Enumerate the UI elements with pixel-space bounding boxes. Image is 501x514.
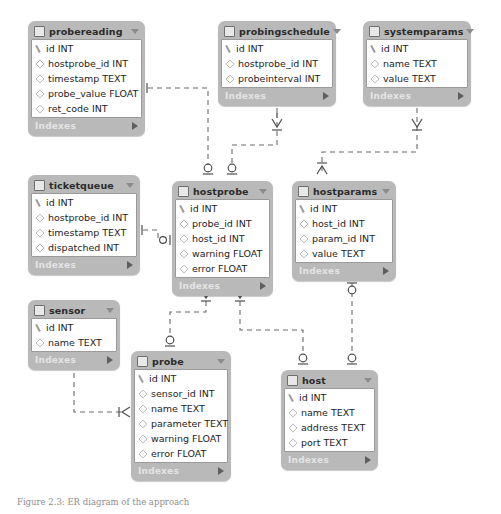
field-row[interactable]: value TEXT [367, 71, 467, 86]
field-row[interactable]: id INT [32, 41, 141, 56]
indexes-label: Indexes [35, 260, 127, 270]
indexes-section-systemparams[interactable]: Indexes [366, 89, 468, 103]
field-row[interactable]: id INT [32, 320, 116, 335]
field-row[interactable]: value TEXT [296, 246, 392, 261]
triangle-right-icon[interactable] [458, 92, 464, 100]
field-row[interactable]: probe_id INT [176, 216, 269, 231]
table-square-icon [178, 186, 189, 197]
table-probereading[interactable]: probereadingid INThostprobe_id INTtimest… [28, 21, 145, 136]
table-name-systemparams: systemparams [384, 26, 463, 37]
diamond-icon [139, 449, 148, 458]
indexes-section-hostparams[interactable]: Indexes [295, 264, 393, 278]
triangle-right-icon[interactable] [260, 282, 266, 290]
indexes-section-probingschedule[interactable]: Indexes [221, 89, 333, 103]
field-label: warning FLOAT [192, 248, 262, 259]
table-header-probe[interactable]: probe [134, 354, 228, 369]
field-row[interactable]: hostprobe_id INT [32, 56, 141, 71]
triangle-right-icon[interactable] [132, 122, 138, 130]
field-label: id INT [299, 392, 326, 403]
table-hostprobe[interactable]: hostprobeid INTprobe_id INThost_id INTwa… [172, 181, 273, 296]
caret-down-icon[interactable] [126, 183, 134, 188]
field-row[interactable]: hostprobe_id INT [32, 210, 136, 225]
field-row[interactable]: parameter TEXT [135, 416, 227, 431]
field-row[interactable]: probeinterval INT [222, 71, 332, 86]
field-list-probereading: id INThostprobe_id INTtimestamp TEXTprob… [31, 39, 142, 118]
field-row[interactable]: name TEXT [367, 56, 467, 71]
field-label: param_id INT [312, 233, 375, 244]
table-sensor[interactable]: sensorid INTname TEXTIndexes [28, 300, 120, 370]
field-row[interactable]: hostprobe_id INT [222, 56, 332, 71]
field-row[interactable]: id INT [176, 201, 269, 216]
table-probe[interactable]: probeid INTsensor_id INTname TEXTparamet… [131, 351, 231, 481]
caret-down-icon[interactable] [466, 29, 474, 34]
field-row[interactable]: address TEXT [285, 420, 374, 435]
field-label: probe_value FLOAT [48, 88, 138, 99]
field-row[interactable]: host_id INT [176, 231, 269, 246]
indexes-section-host[interactable]: Indexes [284, 453, 375, 467]
caret-down-icon[interactable] [333, 29, 341, 34]
indexes-section-ticketqueue[interactable]: Indexes [31, 258, 137, 272]
triangle-right-icon[interactable] [127, 261, 133, 269]
caret-down-icon[interactable] [131, 29, 139, 34]
field-row[interactable]: name TEXT [135, 401, 227, 416]
field-row[interactable]: ret_code INT [32, 101, 141, 116]
field-row[interactable]: param_id INT [296, 231, 392, 246]
caret-down-icon[interactable] [259, 189, 267, 194]
table-probingschedule[interactable]: probingscheduleid INThostprobe_id INTpro… [218, 21, 336, 106]
table-header-host[interactable]: host [284, 373, 375, 388]
table-header-probingschedule[interactable]: probingschedule [221, 24, 333, 39]
indexes-section-probe[interactable]: Indexes [134, 464, 228, 478]
field-row[interactable]: id INT [296, 201, 392, 216]
field-row[interactable]: host_id INT [296, 216, 392, 231]
field-label: id INT [46, 43, 73, 54]
table-header-hostprobe[interactable]: hostprobe [175, 184, 270, 199]
table-host[interactable]: hostid INTname TEXTaddress TEXTport TEXT… [281, 370, 378, 470]
indexes-section-sensor[interactable]: Indexes [31, 353, 117, 367]
field-row[interactable]: sensor_id INT [135, 386, 227, 401]
field-list-systemparams: id INTname TEXTvalue TEXT [366, 39, 468, 88]
triangle-right-icon[interactable] [383, 267, 389, 275]
marker-zero-hostparams-bottom [348, 286, 356, 294]
triangle-right-icon[interactable] [218, 467, 224, 475]
field-row[interactable]: probe_value FLOAT [32, 86, 141, 101]
caret-down-icon[interactable] [364, 378, 372, 383]
field-row[interactable]: error FLOAT [176, 261, 269, 276]
triangle-right-icon[interactable] [323, 92, 329, 100]
field-row[interactable]: id INT [135, 371, 227, 386]
field-row[interactable]: warning FLOAT [135, 431, 227, 446]
table-header-probereading[interactable]: probereading [31, 24, 142, 39]
table-header-sensor[interactable]: sensor [31, 303, 117, 318]
triangle-right-icon[interactable] [365, 456, 371, 464]
caret-down-icon[interactable] [382, 189, 390, 194]
triangle-right-icon[interactable] [107, 356, 113, 364]
table-header-systemparams[interactable]: systemparams [366, 24, 468, 39]
field-row[interactable]: name TEXT [285, 405, 374, 420]
diamond-icon [180, 264, 189, 273]
field-row[interactable]: error FLOAT [135, 446, 227, 461]
field-row[interactable]: port TEXT [285, 435, 374, 450]
field-row[interactable]: id INT [285, 390, 374, 405]
caret-down-icon[interactable] [106, 308, 114, 313]
field-row[interactable]: timestamp TEXT [32, 71, 141, 86]
diamond-icon [139, 434, 148, 443]
field-row[interactable]: warning FLOAT [176, 246, 269, 261]
table-header-ticketqueue[interactable]: ticketqueue [31, 178, 137, 193]
table-systemparams[interactable]: systemparamsid INTname TEXTvalue TEXTInd… [363, 21, 471, 106]
field-row[interactable]: dispatched INT [32, 240, 136, 255]
indexes-section-hostprobe[interactable]: Indexes [175, 279, 270, 293]
field-label: probe_id INT [192, 218, 252, 229]
table-header-hostparams[interactable]: hostparams [295, 184, 393, 199]
table-hostparams[interactable]: hostparamsid INThost_id INTparam_id INTv… [292, 181, 396, 281]
table-ticketqueue[interactable]: ticketqueueid INThostprobe_id INTtimesta… [28, 175, 140, 275]
field-row[interactable]: timestamp TEXT [32, 225, 136, 240]
field-row[interactable]: name TEXT [32, 335, 116, 350]
field-row[interactable]: id INT [32, 195, 136, 210]
field-row[interactable]: id INT [222, 41, 332, 56]
caret-down-icon[interactable] [217, 359, 225, 364]
table-name-ticketqueue: ticketqueue [49, 180, 123, 191]
field-row[interactable]: id INT [367, 41, 467, 56]
indexes-section-probereading[interactable]: Indexes [31, 119, 142, 133]
diamond-icon [36, 89, 45, 98]
indexes-label: Indexes [225, 91, 323, 101]
table-name-probe: probe [152, 356, 214, 367]
